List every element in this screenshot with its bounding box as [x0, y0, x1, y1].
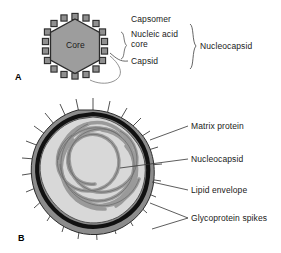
virus-structure-figure: A Core Capsomer Nucleic acid core Capsid… [0, 0, 281, 253]
leader-glycoprotein-2 [152, 218, 188, 229]
label-lipid-envelope: Lipid envelope [191, 185, 247, 195]
label-nucleocapsid-b: Nucleocapsid [191, 154, 243, 164]
label-glycoprotein-spikes: Glycoprotein spikes [191, 213, 267, 223]
leader-glycoprotein-1 [150, 203, 188, 218]
leader-lipid-envelope [152, 182, 188, 190]
label-matrix-protein: Matrix protein [191, 121, 244, 131]
leader-matrix-protein [150, 126, 188, 140]
panel-b-letter: B [18, 233, 25, 243]
